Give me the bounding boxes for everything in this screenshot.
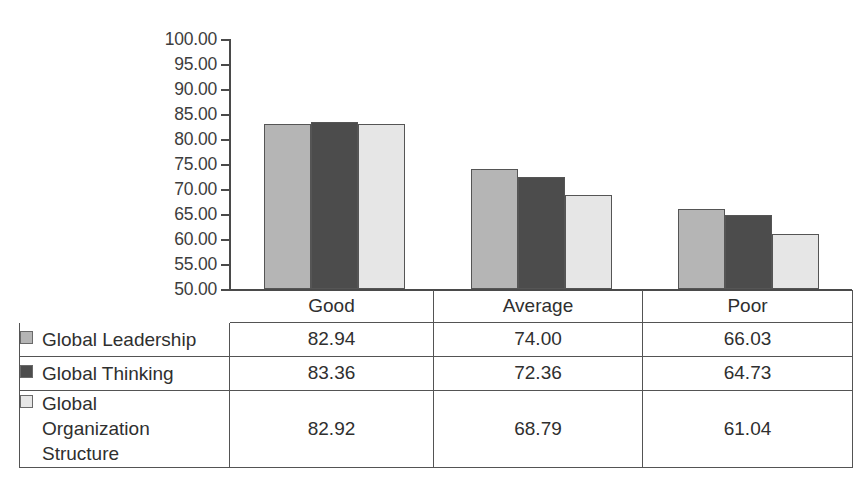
bar — [725, 215, 772, 289]
bars-layer — [231, 0, 852, 290]
legend-cell: Global Thinking — [20, 356, 230, 390]
data-value-cell: 82.92 — [230, 390, 434, 467]
plot-area: 100.0095.0090.0085.0080.0075.0070.0065.0… — [0, 0, 868, 292]
data-value-cell: 74.00 — [434, 322, 643, 356]
data-value-cell: 82.94 — [230, 322, 434, 356]
legend-square-dark-gray-icon — [20, 365, 33, 378]
bar — [772, 234, 819, 289]
bar — [358, 124, 405, 289]
y-axis-tick-label: 85.00 — [137, 106, 217, 124]
table-row: Global Organization Structure82.9268.796… — [20, 390, 853, 467]
table-header-row: GoodAveragePoor — [20, 290, 853, 323]
table-row: Global Thinking83.3672.3664.73 — [20, 356, 853, 390]
table-header-corner-cell — [20, 290, 230, 323]
data-value-cell: 64.73 — [643, 356, 853, 390]
legend-square-light-gray-icon — [20, 395, 33, 408]
legend-cell: Global Organization Structure — [20, 390, 230, 467]
y-axis-tick-label: 95.00 — [137, 56, 217, 74]
y-axis-tick-label: 75.00 — [137, 156, 217, 174]
legend-label: Global Thinking — [42, 361, 174, 386]
grouped-bar-chart-with-data-table: 100.0095.0090.0085.0080.0075.0070.0065.0… — [0, 0, 868, 492]
data-value-cell: 61.04 — [643, 390, 853, 467]
bar — [264, 124, 311, 289]
bar-group — [231, 39, 438, 289]
bar — [311, 122, 358, 289]
y-axis-tick-label: 90.00 — [137, 81, 217, 99]
legend-cell: Global Leadership — [20, 322, 230, 356]
data-value-cell: 72.36 — [434, 356, 643, 390]
category-header-cell: Poor — [643, 290, 853, 323]
data-value-cell: 66.03 — [643, 322, 853, 356]
bar — [565, 195, 612, 289]
bar-group — [438, 39, 645, 289]
bar — [678, 209, 725, 289]
bar — [518, 177, 565, 289]
category-header-cell: Good — [230, 290, 434, 323]
table-row: Global Leadership82.9474.0066.03 — [20, 322, 853, 356]
y-axis-tick-label: 70.00 — [137, 181, 217, 199]
category-header-cell: Average — [434, 290, 643, 323]
y-axis-tick-label: 55.00 — [137, 256, 217, 274]
y-axis-tick-labels: 100.0095.0090.0085.0080.0075.0070.0065.0… — [132, 0, 217, 292]
y-axis-tick-label: 100.00 — [137, 31, 217, 49]
chart-data-table: GoodAveragePoorGlobal Leadership82.9474.… — [19, 289, 853, 468]
y-axis-tick-label: 65.00 — [137, 206, 217, 224]
legend-label: Global Organization Structure — [42, 391, 182, 466]
legend-square-medium-gray-icon — [20, 331, 33, 344]
data-value-cell: 68.79 — [434, 390, 643, 467]
y-axis-tick-label: 60.00 — [137, 231, 217, 249]
bar-group — [645, 39, 852, 289]
legend-label: Global Leadership — [42, 327, 196, 352]
data-value-cell: 83.36 — [230, 356, 434, 390]
y-axis-tick-label: 80.00 — [137, 131, 217, 149]
bar — [471, 169, 518, 289]
